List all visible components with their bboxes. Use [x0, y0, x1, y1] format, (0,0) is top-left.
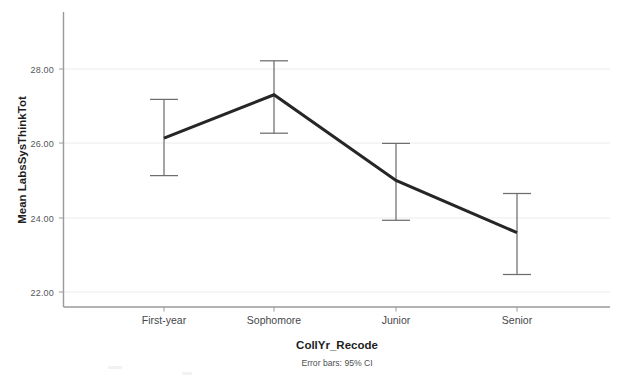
y-tick-label-24: 24.00 [30, 214, 54, 224]
x-axis-title: CollYr_Recode [296, 339, 378, 351]
y-tick-label-26: 26.00 [30, 139, 54, 149]
x-tick-label-first-year: First-year [142, 314, 187, 326]
error-bar-footnote: Error bars: 95% CI [301, 358, 372, 368]
scan-artifact [108, 366, 122, 369]
gridlines [64, 69, 610, 292]
chart-canvas: 28.00 26.00 24.00 22.00 Mean LabsSysThin… [0, 0, 628, 378]
y-tick-label-22: 22.00 [30, 288, 54, 298]
x-tick-label-senior: Senior [502, 314, 533, 326]
x-tick-label-sophomore: Sophomore [247, 314, 301, 326]
line-chart-with-error-bars: 28.00 26.00 24.00 22.00 Mean LabsSysThin… [0, 0, 628, 378]
x-tick-label-junior: Junior [382, 314, 411, 326]
y-tick-label-28: 28.00 [30, 65, 54, 75]
y-axis-title: Mean LabsSysThinkTot [16, 96, 28, 224]
error-bars [150, 61, 531, 275]
scan-artifact [182, 372, 192, 375]
mean-series-line [164, 95, 517, 233]
